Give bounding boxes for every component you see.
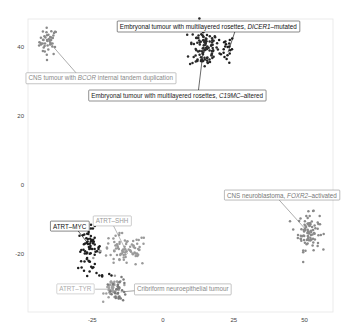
data-point [88,253,91,256]
cluster-label: ATRT–MYC [50,221,89,231]
data-point [107,283,110,286]
data-point [195,49,198,52]
data-point [112,283,115,286]
data-point [92,242,95,245]
data-point [310,229,313,232]
data-point [93,253,96,256]
data-point [50,43,53,46]
y-tick-label: 20 [17,113,24,119]
data-point [106,246,109,249]
data-point [108,273,111,276]
data-point [124,253,127,256]
data-point [124,256,127,259]
x-tick-label: 0 [161,317,165,323]
data-point [47,48,50,51]
data-point [132,240,135,243]
data-point [202,53,205,56]
data-point [197,34,200,37]
data-point [308,222,311,225]
data-point [218,52,221,55]
data-point [131,243,134,246]
data-point [94,250,97,253]
data-point [314,227,317,230]
data-point [134,247,137,250]
data-point [141,262,144,265]
data-point [118,232,121,235]
data-point [52,34,55,37]
data-point [304,249,307,252]
data-point [223,56,226,59]
data-point [86,275,89,278]
data-point [109,281,112,284]
svg-text:ATRT–SHH: ATRT–SHH [96,217,129,224]
data-point [89,238,92,241]
data-point [47,33,50,36]
data-point [122,299,125,302]
data-point [143,236,146,239]
data-point [297,237,300,240]
data-point [112,262,115,265]
data-point [113,241,116,244]
data-point [46,53,49,56]
data-point [114,235,117,238]
x-tick-label: -25 [88,317,97,323]
data-point [190,42,193,45]
data-point [127,248,130,251]
data-point [105,254,108,257]
data-point [211,47,214,50]
data-point [302,251,305,254]
data-point [129,245,132,248]
data-point [203,56,206,59]
data-point [229,39,232,42]
data-point [140,237,143,240]
data-point [309,236,312,239]
data-point [310,234,313,237]
data-point [124,293,127,296]
data-point [313,224,316,227]
data-point [222,52,225,55]
data-point [55,31,58,34]
data-point [303,239,306,242]
svg-text:CNS tumour with BCOR internal: CNS tumour with BCOR internal tandem dup… [28,74,173,82]
cluster-label: ATRT–TYR [57,284,94,294]
data-point [44,42,47,45]
data-point [46,44,49,47]
data-point [313,232,316,235]
data-point [200,56,203,59]
data-point [42,39,45,42]
data-point [78,234,81,237]
data-point [134,263,137,266]
data-point [211,50,214,53]
data-point [110,274,113,277]
y-tick-label: 0 [21,182,25,188]
data-point [112,237,115,240]
data-point [118,281,121,284]
data-point [312,209,315,212]
data-point [205,38,208,41]
cluster-label: ATRT–SHH [93,216,131,226]
data-point [322,248,325,251]
data-point [225,58,228,61]
data-point [102,292,105,295]
data-point [90,227,93,230]
data-point [121,289,124,292]
data-point [186,34,189,37]
data-point [303,230,306,233]
data-point [222,48,225,51]
data-point [87,260,90,263]
data-point [212,55,215,58]
data-point [113,249,116,252]
data-point [88,248,91,251]
data-point [289,220,292,223]
data-point [298,220,301,223]
data-point [54,46,57,49]
data-point [208,40,211,43]
data-point [124,239,127,242]
data-point [98,245,101,248]
data-point [187,55,190,58]
data-point [136,243,139,246]
data-point [317,234,320,237]
data-point [93,237,96,240]
data-point [303,223,306,226]
data-point [99,250,102,253]
